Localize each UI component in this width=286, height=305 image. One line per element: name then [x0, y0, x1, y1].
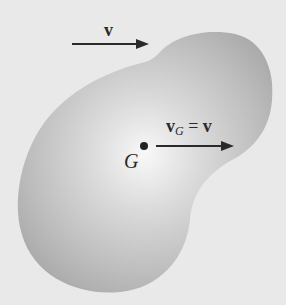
rigid-body-shape — [18, 32, 273, 293]
velocity-g-main: v — [166, 116, 175, 136]
center-of-mass-label: G — [124, 150, 138, 173]
center-of-mass-point — [140, 142, 148, 150]
diagram-svg — [0, 0, 286, 305]
diagram-canvas: v vG = v G — [0, 0, 286, 305]
velocity-g-rhs: v — [203, 116, 212, 136]
velocity-label-top: v — [104, 20, 113, 41]
velocity-g-equals: = — [184, 116, 203, 136]
velocity-g-subscript: G — [175, 124, 184, 138]
velocity-g-label: vG = v — [166, 116, 212, 137]
